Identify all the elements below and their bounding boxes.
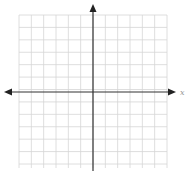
x-axis-label: x (180, 88, 185, 97)
y-axis-top-arrow-icon (90, 4, 97, 12)
x-axis-left-arrow-icon (4, 89, 12, 96)
y-axis (90, 4, 97, 171)
coordinate-plane: x (0, 0, 186, 171)
x-axis-right-arrow-icon (168, 89, 176, 96)
